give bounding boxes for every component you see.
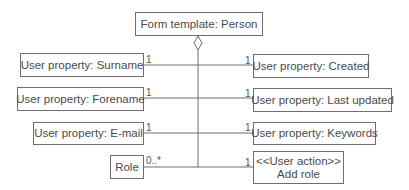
box-label: User property: Surname: [21, 59, 144, 72]
surname-property-box: User property: Surname: [20, 53, 144, 77]
role-box: Role: [110, 155, 144, 179]
multiplicity-label: 1: [146, 55, 152, 65]
box-label: User property: Forename: [16, 93, 144, 106]
multiplicity-label: 1: [245, 123, 251, 133]
multiplicity-label: 0..*: [146, 156, 161, 166]
aggregation-diamond-icon: [194, 36, 202, 50]
multiplicity-label: 1: [245, 158, 251, 168]
box-label: Role: [115, 161, 139, 174]
box-label: User property: Keywords: [251, 127, 378, 140]
multiplicity-label: 1: [146, 88, 152, 98]
multiplicity-label: 1: [245, 89, 251, 99]
stereotype-label: <<User action>>: [256, 155, 341, 168]
keywords-property-box: User property: Keywords: [253, 122, 376, 145]
box-label: User property: E-mail: [34, 127, 143, 140]
form-template-person-box: Form template: Person: [135, 12, 263, 36]
box-label: Form template: Person: [141, 18, 258, 31]
email-property-box: User property: E-mail: [33, 122, 144, 145]
forename-property-box: User property: Forename: [17, 87, 144, 111]
box-label: User property: Last updated: [251, 94, 394, 107]
box-label: Add role: [277, 168, 320, 181]
box-label: User property: Created: [253, 60, 370, 73]
add-role-action-box: <<User action>> Add role: [253, 151, 344, 184]
multiplicity-label: 1: [146, 123, 152, 133]
multiplicity-label: 1: [245, 56, 251, 66]
created-property-box: User property: Created: [253, 54, 369, 78]
last-updated-property-box: User property: Last updated: [253, 88, 392, 112]
